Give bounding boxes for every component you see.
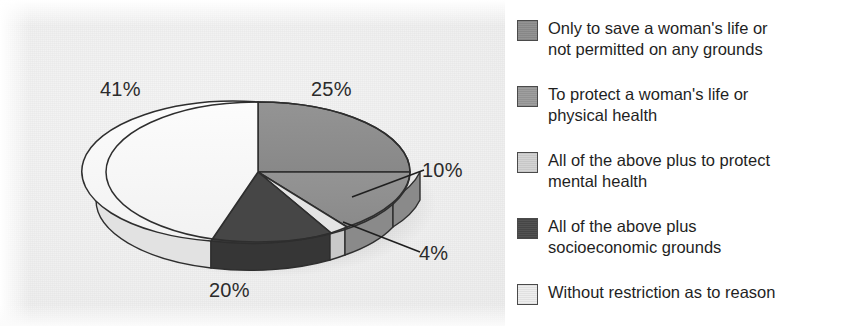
legend-label-4: Without restriction as to reason (548, 282, 775, 303)
legend-item-0[interactable]: Only to save a woman's life or not permi… (517, 18, 851, 60)
pie-value-label-10: 10% (422, 159, 463, 182)
pie-value-label-20: 20% (209, 279, 250, 302)
legend-item-2[interactable]: All of the above plus to protect mental … (517, 150, 851, 192)
legend-item-3[interactable]: All of the above plus socioeconomic grou… (517, 216, 851, 258)
legend-item-4[interactable]: Without restriction as to reason (517, 282, 851, 305)
pie-slice-25 (258, 102, 410, 172)
legend-label-0: Only to save a woman's life or not permi… (548, 18, 768, 60)
pie-value-label-41: 41% (100, 78, 141, 101)
legend-item-1[interactable]: To protect a woman's life or physical he… (517, 84, 851, 126)
legend-label-2: All of the above plus to protect mental … (548, 150, 770, 192)
pie-value-label-25: 25% (311, 78, 352, 101)
legend-swatch-0 (517, 20, 538, 41)
chart-legend: Only to save a woman's life or not permi… (513, 0, 853, 326)
legend-swatch-2 (517, 152, 538, 173)
legend-swatch-1 (517, 86, 538, 107)
legend-swatch-4 (517, 284, 538, 305)
pie-chart-figure: 41% 25% 10% 4% 20% Only to save a woman'… (0, 0, 853, 326)
legend-label-3: All of the above plus socioeconomic grou… (548, 216, 721, 258)
legend-swatch-3 (517, 218, 538, 239)
legend-label-1: To protect a woman's life or physical he… (548, 84, 748, 126)
chart-plot-area: 41% 25% 10% 4% 20% (0, 0, 505, 326)
pie-value-label-4: 4% (419, 242, 448, 265)
